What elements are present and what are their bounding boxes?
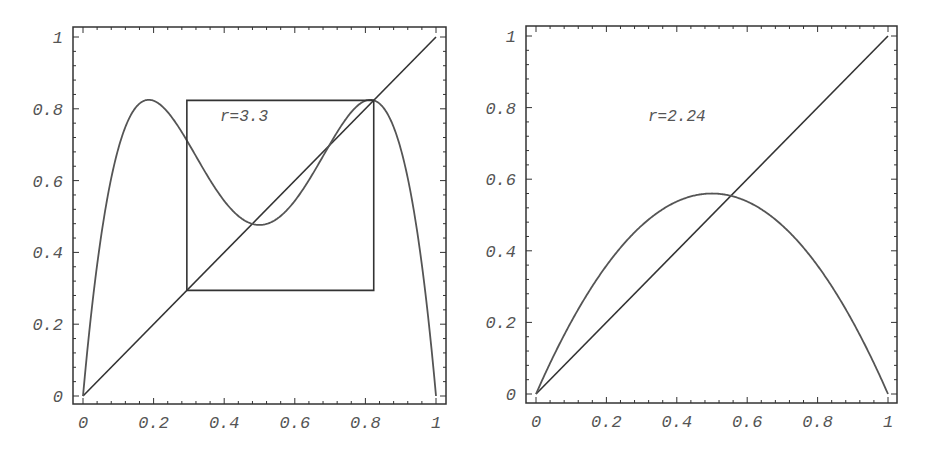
x-tick-label: 0 xyxy=(531,413,541,432)
x-tick-label: 0.2 xyxy=(591,413,622,432)
x-tick-label: 1 xyxy=(883,413,893,432)
y-tick-label: 0.6 xyxy=(485,171,516,190)
y-tick-label: 0.4 xyxy=(32,244,63,263)
y-tick-label: 0.4 xyxy=(485,243,516,262)
r-annotation: r=2.24 xyxy=(648,108,706,126)
x-tick-label: 0.2 xyxy=(138,414,169,433)
x-tick-label: 0.4 xyxy=(209,414,240,433)
x-tick-label: 0.4 xyxy=(661,413,692,432)
identity-line xyxy=(83,37,436,396)
y-tick-label: 1 xyxy=(506,28,516,47)
x-tick-label: 0.6 xyxy=(732,413,763,432)
y-tick-label: 0.2 xyxy=(485,314,516,333)
y-tick-label: 1 xyxy=(53,29,63,48)
y-tick-label: 0.2 xyxy=(32,316,63,335)
r-annotation: r=3.3 xyxy=(220,108,268,126)
figure: 00.20.40.60.8100.20.40.60.81r=3.3 00.20.… xyxy=(0,0,927,450)
y-tick-label: 0 xyxy=(53,388,63,407)
x-tick-label: 0 xyxy=(78,414,88,433)
y-tick-label: 0.8 xyxy=(32,101,63,120)
x-tick-label: 0.8 xyxy=(350,414,381,433)
right-chart-panel: 00.20.40.60.8100.20.40.60.81r=2.24 xyxy=(485,26,897,432)
x-tick-label: 0.8 xyxy=(802,413,833,432)
y-tick-label: 0.6 xyxy=(32,173,63,192)
map-curve xyxy=(536,194,888,394)
identity-line xyxy=(536,36,888,394)
x-tick-label: 1 xyxy=(431,414,441,433)
map-curve xyxy=(83,100,436,396)
y-tick-label: 0 xyxy=(506,386,516,405)
x-tick-label: 0.6 xyxy=(279,414,310,433)
left-chart-panel: 00.20.40.60.8100.20.40.60.81r=3.3 xyxy=(32,27,446,433)
y-tick-label: 0.8 xyxy=(485,100,516,119)
